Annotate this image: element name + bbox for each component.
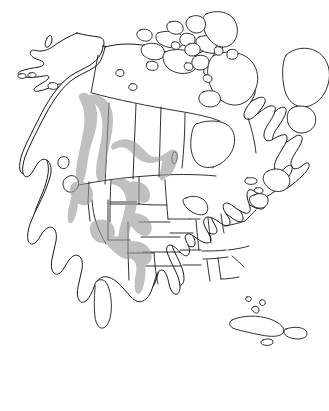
island-arctic-small-1 bbox=[227, 49, 238, 59]
island-arctic-small-3 bbox=[171, 42, 180, 50]
island-aleutian-2 bbox=[28, 73, 36, 78]
island-jamaica bbox=[261, 339, 273, 345]
island-southampton bbox=[199, 91, 221, 107]
lake-great-slave bbox=[129, 84, 137, 91]
island-arctic-small-6 bbox=[203, 75, 212, 83]
island-bahamas-2 bbox=[260, 300, 266, 306]
island-greenland-south bbox=[287, 106, 316, 133]
north-america-map-svg bbox=[0, 0, 329, 411]
island-kodiak bbox=[48, 83, 58, 90]
island-anticosti bbox=[245, 178, 257, 185]
island-ellef-ringnes bbox=[167, 21, 183, 34]
island-somerset bbox=[185, 43, 200, 56]
island-arctic-small-2 bbox=[214, 47, 223, 56]
island-bahamas-3 bbox=[246, 297, 252, 302]
lake-great-bear bbox=[116, 70, 124, 77]
island-haida-gwaii bbox=[58, 157, 69, 169]
island-arctic-small-4 bbox=[146, 61, 158, 70]
island-arctic-small-5 bbox=[184, 63, 193, 71]
island-prince-edward bbox=[254, 188, 263, 194]
island-aleutian-1 bbox=[18, 74, 26, 79]
island-prince-of-wales bbox=[192, 55, 209, 70]
range-map-figure: North America species distribution map N… bbox=[0, 0, 329, 411]
